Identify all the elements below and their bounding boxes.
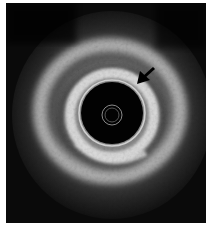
ultrasound-scan [6, 3, 206, 223]
ultrasound-image [6, 3, 206, 223]
lumen [81, 82, 143, 144]
